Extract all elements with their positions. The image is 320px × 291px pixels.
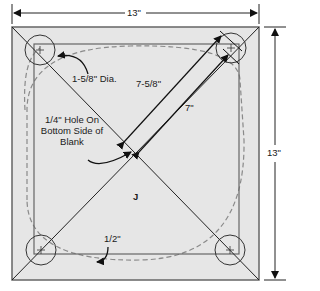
diagonal-inner-label: 7" <box>185 102 194 113</box>
center-hole-line3: Blank <box>32 136 112 147</box>
height-label: 13" <box>267 147 281 158</box>
hole-diameter-label: 1-5/8" Dia. <box>72 73 117 84</box>
center-hole-line2: Bottom Side of <box>32 125 112 136</box>
width-label: 13" <box>127 7 141 18</box>
part-letter: J <box>133 191 138 202</box>
center-hole-label: 1/4" Hole On Bottom Side of Blank <box>32 114 112 147</box>
edge-inset-label: 1/2" <box>104 233 121 244</box>
diagonal-outer-label: 7-5/8" <box>136 78 161 89</box>
center-hole-line1: 1/4" Hole On <box>32 114 112 125</box>
